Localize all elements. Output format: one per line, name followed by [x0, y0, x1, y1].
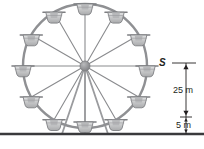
point-s-label: S: [159, 58, 166, 68]
hub-height-label: 25 m: [173, 86, 193, 95]
gondola-4: [136, 66, 158, 77]
gondola-1: [74, 4, 96, 15]
ferris-wheel-svg: [0, 0, 204, 149]
ground-clearance-label: 5 m: [176, 121, 191, 130]
arrow-down-25m: [183, 111, 188, 116]
arrow-up-25m: [183, 65, 188, 70]
wheel-hub: [80, 61, 90, 71]
ferris-wheel-figure: S 25 m 5 m: [0, 0, 204, 149]
gondola-8: [43, 120, 65, 131]
gondola-10: [12, 66, 34, 77]
gondola-6: [105, 120, 127, 131]
gondola-3: [128, 35, 150, 46]
gondola-11: [20, 35, 42, 46]
